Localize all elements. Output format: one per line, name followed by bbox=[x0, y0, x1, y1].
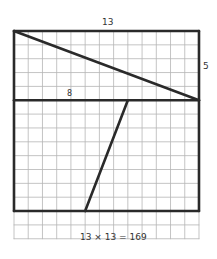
bold-outline bbox=[14, 31, 199, 211]
square-dissection-figure bbox=[0, 0, 217, 259]
right-height-label: 5 bbox=[203, 62, 209, 71]
triangle-diagonal-line bbox=[14, 31, 199, 100]
area-equation-label: 13 × 13 = 169 bbox=[80, 233, 147, 242]
grid-lines bbox=[14, 31, 199, 239]
middle-segment-label: 8 bbox=[67, 90, 72, 98]
diagram-canvas: 13 5 8 13 × 13 = 169 bbox=[0, 0, 217, 259]
top-width-label: 13 bbox=[102, 18, 113, 27]
